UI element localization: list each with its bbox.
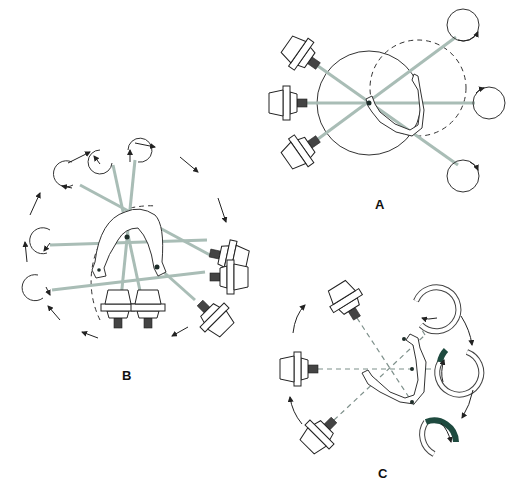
xray-tube-icon (295, 408, 346, 459)
xray-tube-icon (269, 86, 307, 120)
detector-circle-icon (437, 350, 481, 395)
xray-tube-icon (277, 125, 328, 175)
detector-circle-icon (447, 9, 479, 41)
detector-circle-icon (53, 161, 73, 187)
xray-tube-icon (280, 352, 318, 386)
panoramic-rotation-diagram (0, 0, 515, 492)
panel-c (280, 277, 481, 459)
rotation-center-dot-icon (410, 400, 414, 404)
panel-b (22, 138, 251, 342)
panel-label-c: C (378, 466, 387, 481)
detector-circle-icon (416, 287, 458, 331)
xray-tube-icon (322, 277, 371, 327)
xray-tube-icon (131, 290, 165, 328)
detector-circle-icon (88, 150, 112, 174)
rotation-center-dot-icon (155, 265, 160, 270)
detector-circle-icon (128, 138, 152, 162)
xray-tube-icon (101, 290, 135, 328)
rotation-center-dot-icon (402, 337, 406, 341)
rotation-center-dot-icon (125, 235, 130, 240)
panel-label-b: B (122, 368, 131, 383)
rotation-center-dot-icon (410, 367, 414, 371)
detector-circle-icon (30, 228, 50, 254)
detector-circle-icon (422, 420, 456, 454)
panel-label-a: A (375, 197, 384, 212)
detector-circle-icon (22, 275, 43, 301)
xray-tube-icon (277, 30, 328, 80)
rotation-center-dot-icon (367, 101, 372, 106)
panel-a (269, 9, 505, 192)
